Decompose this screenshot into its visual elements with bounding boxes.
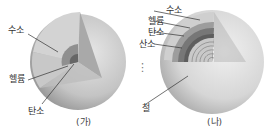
- label-hydrogen: 수소: [8, 26, 24, 35]
- label-hydrogen: 수소: [166, 6, 182, 15]
- label-carbon: 탄소: [28, 107, 44, 116]
- caption-ga: (가): [76, 118, 91, 127]
- label-ellipsis: ⋮: [137, 62, 148, 73]
- figure-na: 수소 헬륨 탄소 산소 ⋮ 철 (나): [134, 0, 268, 134]
- figure-ga: 수소 헬륨 탄소 (가): [0, 0, 134, 134]
- caption-na: (나): [207, 118, 222, 127]
- label-oxygen: 산소: [139, 40, 155, 49]
- label-helium: 헬륨: [9, 75, 25, 84]
- star-cross-section-ga: [0, 0, 134, 134]
- label-carbon: 탄소: [148, 28, 164, 37]
- label-iron: 철: [142, 104, 150, 113]
- label-helium: 헬륨: [148, 17, 164, 26]
